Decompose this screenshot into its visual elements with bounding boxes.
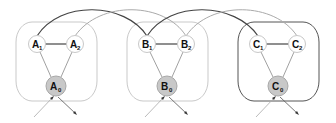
- node-c2: C2: [289, 36, 306, 53]
- arc-a2-b2: [75, 10, 186, 36]
- node-a0: A0: [46, 76, 66, 96]
- node-b0: B0: [157, 76, 177, 96]
- node-a1: A1: [29, 36, 46, 53]
- network-diagram: A1 A2 A0 B1 B2 B0 C1 C2 C0: [0, 0, 336, 123]
- group-b-edges: [150, 44, 183, 77]
- group-a-edges: [40, 44, 72, 77]
- svg-text:C: C: [272, 81, 279, 92]
- arc-a1-b1: [37, 10, 147, 36]
- svg-text:A: A: [50, 81, 57, 92]
- node-c0: C0: [268, 76, 288, 96]
- group-c-io-arrows: [256, 96, 299, 117]
- node-b2: B2: [178, 36, 195, 53]
- node-c1: C1: [250, 36, 267, 53]
- arc-b2-c2: [186, 10, 297, 36]
- group-a-io-arrows: [34, 96, 77, 117]
- node-a2: A2: [67, 36, 84, 53]
- svg-text:B: B: [161, 81, 168, 92]
- group-b-io-arrows: [145, 96, 188, 117]
- group-c-edges: [261, 44, 294, 77]
- node-b1: B1: [139, 36, 156, 53]
- arc-b1-c1: [147, 10, 258, 36]
